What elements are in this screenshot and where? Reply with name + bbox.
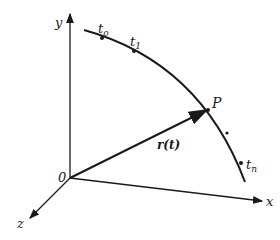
point-tn — [239, 161, 243, 165]
y-axis-label: y — [54, 15, 63, 30]
x-axis-label: x — [266, 194, 274, 209]
origin-label: 0 — [58, 170, 66, 185]
position-vector — [70, 110, 207, 178]
P-label: P — [211, 95, 222, 111]
t0-label: to — [98, 21, 109, 38]
x-axis — [70, 178, 262, 201]
vector-label: r(t) — [157, 138, 180, 152]
point-tn-mid — [225, 131, 228, 134]
z-axis-label: z — [16, 216, 24, 231]
diagram-canvas: y x z 0 to t1 P tn r(t) — [0, 0, 280, 240]
tn-label: tn — [246, 157, 257, 174]
t1-label: t1 — [130, 34, 141, 51]
